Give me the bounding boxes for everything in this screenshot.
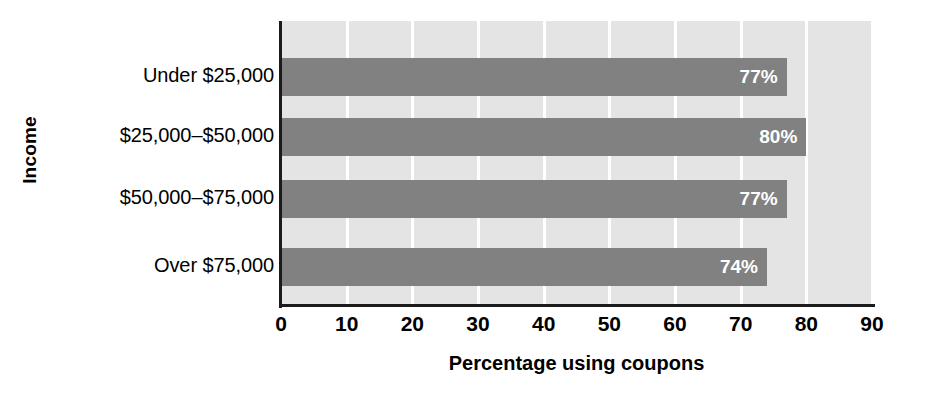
x-axis-tick-label: 10 — [335, 312, 358, 336]
x-axis-tick-label: 80 — [795, 312, 818, 336]
bar-value-label: 80% — [759, 126, 806, 148]
y-axis-tick-label: $25,000–$50,000 — [56, 124, 274, 147]
bar-chart: Income Under $25,000$25,000–$50,000$50,0… — [0, 0, 942, 399]
y-axis-title: Income — [0, 0, 60, 300]
x-axis-tick-label: 0 — [275, 312, 287, 336]
y-axis-title-label: Income — [19, 116, 41, 184]
y-axis-tick-label: Under $25,000 — [56, 64, 274, 87]
x-axis-line — [279, 304, 875, 307]
gridline — [871, 21, 874, 305]
x-axis-tick-label: 30 — [466, 312, 489, 336]
y-axis-line — [279, 21, 282, 308]
bar: 74% — [281, 248, 767, 286]
x-axis-tick-label: 20 — [401, 312, 424, 336]
y-axis-tick-label: Over $75,000 — [56, 254, 274, 277]
x-axis-title: Percentage using coupons — [281, 352, 872, 375]
y-axis-tick-label: $50,000–$75,000 — [56, 186, 274, 209]
bar: 77% — [281, 180, 787, 218]
bar: 80% — [281, 118, 806, 156]
bar-value-label: 77% — [740, 188, 787, 210]
x-axis-tick-label: 60 — [663, 312, 686, 336]
x-axis-tick-label: 90 — [860, 312, 883, 336]
bar-value-label: 74% — [720, 256, 767, 278]
bar: 77% — [281, 58, 787, 96]
x-axis-tick-label: 70 — [729, 312, 752, 336]
x-axis-tick-label: 50 — [598, 312, 621, 336]
bar-value-label: 77% — [740, 66, 787, 88]
plot-area: 77%80%77%74% — [281, 21, 872, 305]
x-axis-tick-labels: 0102030405060708090 — [281, 312, 872, 344]
gridline — [805, 21, 808, 305]
x-axis-tick-label: 40 — [532, 312, 555, 336]
y-axis-tick-labels: Under $25,000$25,000–$50,000$50,000–$75,… — [52, 0, 274, 310]
